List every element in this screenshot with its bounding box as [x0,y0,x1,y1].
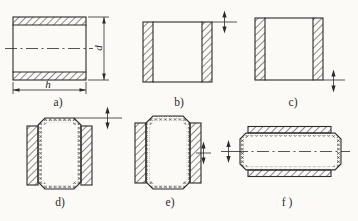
dimension-label-h: h [45,78,51,90]
part-interior [150,121,186,185]
dim-arrowhead-right [80,88,87,92]
part-interior [42,123,77,185]
dim-arrowhead-up [102,17,106,24]
hatch-strip-top [13,17,86,25]
oscillation-arrow-bottom [331,70,335,93]
dim-arrowhead-left [13,88,20,92]
dim-arrowhead-down [102,74,106,81]
hatch-strip-right [313,18,323,80]
machining-figure-canvas: d h a) b) c) [0,0,358,221]
panel-label-c: c) [289,96,298,109]
hatch-strip-left [143,22,153,82]
dimension-label-d: d [92,45,104,51]
panel-label-e: e) [166,196,175,209]
panel-a: d h a) [5,17,109,109]
panel-b: b) [143,11,237,110]
hatch-strip-left [255,18,265,80]
hatch-strip-right [81,126,92,185]
hatch-strip-top [248,127,331,134]
hatch-strip-bottom [248,170,331,177]
hatch-strip-left [27,126,38,185]
panel-label-d: d) [55,196,65,209]
panel-label-b: b) [174,96,184,109]
panel-label-a: a) [54,96,63,109]
panel-label-f: f ) [282,196,293,209]
panel-d: d) [27,107,122,210]
hatch-strip-right [202,22,212,82]
dimension-d: d [88,17,109,80]
panel-e: e) [135,116,211,209]
panel-f: f ) [221,127,350,210]
panel-c: c) [255,18,345,109]
hatch-strip-left [135,123,146,183]
